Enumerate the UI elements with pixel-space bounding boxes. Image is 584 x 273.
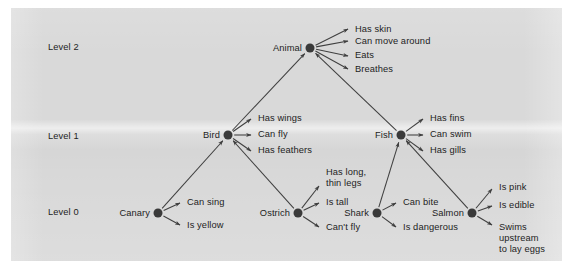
level-label-2: Level 0: [48, 207, 79, 217]
level-label-0: Level 2: [48, 42, 79, 52]
node-label-canary: Canary: [119, 208, 150, 218]
node-label-animal: Animal: [273, 43, 302, 53]
node-label-shark: Shark: [344, 208, 369, 218]
node-dot-salmon: [468, 209, 477, 218]
node-label-bird: Bird: [203, 130, 220, 140]
property-label-animal-1: Can move around: [355, 36, 430, 47]
node-dot-animal: [306, 44, 315, 53]
property-label-bird-6: Has feathers: [258, 145, 312, 156]
property-label-ostrich-13: Is tall: [326, 197, 348, 208]
property-label-canary-11: Is yellow: [187, 220, 224, 231]
property-label-shark-15: Can bite: [403, 197, 438, 208]
level-label-1: Level 1: [48, 131, 79, 141]
node-dot-shark: [373, 209, 382, 218]
property-label-canary-10: Can sing: [187, 197, 225, 208]
property-label-animal-0: Has skin: [355, 24, 391, 35]
property-label-salmon-17: Is pink: [499, 182, 527, 193]
node-label-fish: Fish: [375, 130, 393, 140]
node-label-ostrich: Ostrich: [260, 208, 290, 218]
node-dot-canary: [154, 209, 163, 218]
property-label-bird-4: Has wings: [258, 113, 302, 124]
property-label-salmon-18: Is edible: [499, 200, 535, 211]
property-label-bird-5: Can fly: [258, 129, 288, 140]
property-label-animal-2: Eats: [355, 50, 374, 61]
property-label-fish-8: Can swim: [430, 129, 472, 140]
property-label-shark-16: Is dangerous: [403, 222, 458, 233]
property-label-ostrich-14: Can't fly: [326, 222, 360, 233]
node-dot-fish: [397, 131, 406, 140]
node-dot-bird: [224, 131, 233, 140]
property-label-fish-7: Has fins: [430, 113, 464, 124]
property-label-salmon-19: Swims upstream to lay eggs: [499, 222, 545, 256]
property-label-fish-9: Has gills: [430, 145, 466, 156]
node-label-salmon: Salmon: [432, 208, 464, 218]
property-label-ostrich-12: Has long, thin legs: [326, 167, 366, 189]
semantic-network-figure: Level 2Level 1Level 0 AnimalBirdFishCana…: [0, 0, 584, 273]
property-label-animal-3: Breathes: [355, 64, 393, 75]
node-dot-ostrich: [294, 209, 303, 218]
